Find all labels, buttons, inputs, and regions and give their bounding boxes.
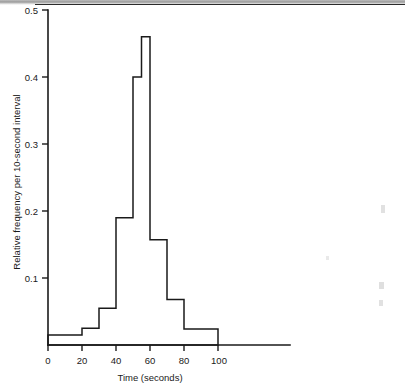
histogram-outline [48,37,218,345]
y-tick-label-0.4: 0.4 [25,72,38,83]
x-tick-label-20: 20 [77,355,88,366]
y-axis-title: Relative frequency per 10-second interva… [11,94,22,269]
x-tick-label-60: 60 [145,355,156,366]
y-tick-label-0.1: 0.1 [25,273,38,284]
x-tick-label-0: 0 [45,355,50,366]
histogram-chart: 0.5 0.4 0.3 0.2 0.1 0 20 40 60 80 100 Ti… [0,0,405,389]
y-tick-label-0.2: 0.2 [25,206,38,217]
x-tick-label-80: 80 [179,355,190,366]
x-axis-title: Time (seconds) [117,372,182,383]
x-tick-label-100: 100 [211,355,227,366]
figure-page: 0.5 0.4 0.3 0.2 0.1 0 20 40 60 80 100 Ti… [0,0,405,389]
y-tick-label-0.5: 0.5 [25,5,38,16]
x-tick-label-40: 40 [111,355,122,366]
y-tick-label-0.3: 0.3 [25,139,38,150]
